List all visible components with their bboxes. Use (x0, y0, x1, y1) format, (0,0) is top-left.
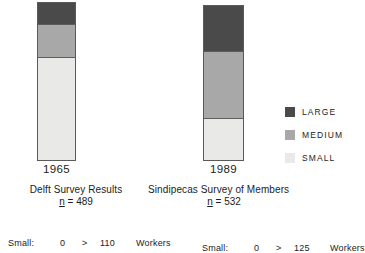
bar-year-label-1965: 1965 (17, 163, 96, 175)
legend-label-medium: MEDIUM (302, 130, 343, 140)
bar-segment-large (204, 6, 243, 51)
legend-label-large: LARGE (302, 107, 336, 117)
survey-n-equals-1989: = (213, 196, 224, 207)
bar-year-label-1989: 1989 (184, 163, 263, 175)
survey-n-1989: n = 532 (148, 196, 300, 207)
footnote-category-1965: Small: (8, 238, 60, 248)
survey-n-1965: n = 489 (6, 196, 146, 207)
bar-segment-small (38, 58, 75, 160)
survey-title-1965: Delft Survey Results (6, 184, 146, 195)
footnote-unit-1965: Workers (136, 238, 171, 248)
bar-segment-small (204, 119, 243, 160)
footnote-low-1989: 0 (254, 243, 276, 253)
footnote-operator-1965: > (82, 238, 100, 248)
bar-segment-large (38, 3, 75, 24)
legend-label-small: SMALL (302, 153, 335, 163)
survey-title-1989: Sindipecas Survey of Members (148, 184, 300, 195)
footnote-row-1965: Small:0>110Workers (8, 238, 171, 248)
legend-item-large[interactable]: LARGE (285, 103, 343, 121)
footnote-high-1965: 110 (100, 238, 136, 248)
legend-swatch-large-icon (285, 107, 295, 117)
footnote-unit-1989: Workers (330, 243, 365, 253)
legend-swatch-small-icon (285, 153, 295, 163)
survey-n-equals-1965: = (65, 196, 76, 207)
legend-item-medium[interactable]: MEDIUM (285, 126, 343, 144)
footnote-category-1989: Small: (202, 243, 254, 253)
legend-item-small[interactable]: SMALL (285, 149, 343, 167)
stacked-bar-1989 (203, 5, 244, 161)
footnote-high-1989: 125 (294, 243, 330, 253)
stacked-bar-1965 (37, 2, 76, 161)
bar-segment-medium (38, 24, 75, 59)
footnote-row-1989: Small:0>125Workers (202, 243, 365, 253)
footnote-operator-1989: > (276, 243, 294, 253)
legend-swatch-medium-icon (285, 130, 295, 140)
survey-n-value-1989: 532 (224, 196, 241, 207)
footnote-low-1965: 0 (60, 238, 82, 248)
chart-legend: LARGE MEDIUM SMALL (285, 103, 343, 172)
bar-segment-medium (204, 51, 243, 119)
survey-n-value-1965: 489 (76, 196, 93, 207)
